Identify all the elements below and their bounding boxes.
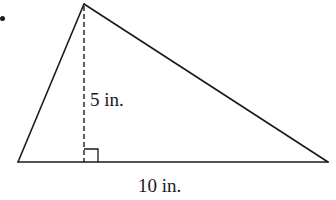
- triangle-diagram: [0, 0, 336, 200]
- height-label: 5 in.: [90, 90, 124, 109]
- right-side: [84, 4, 328, 162]
- right-angle-marker: [84, 149, 98, 162]
- left-side: [18, 4, 84, 162]
- triangle-figure: 5 in. 10 in.: [0, 0, 336, 200]
- base-label: 10 in.: [138, 176, 181, 195]
